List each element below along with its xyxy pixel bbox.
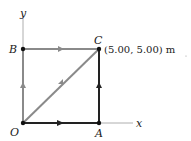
point-o xyxy=(21,121,25,125)
label-c: C xyxy=(94,35,102,46)
x-axis-label: x xyxy=(136,118,142,129)
label-a: A xyxy=(95,128,103,139)
arrow-o-c-icon xyxy=(58,79,63,84)
point-a xyxy=(97,121,101,125)
path-diagram xyxy=(0,0,191,141)
arrow-b-c-icon xyxy=(58,46,64,52)
arrow-o-a-icon xyxy=(57,120,64,126)
arrow-o-b-icon xyxy=(20,82,26,88)
path-o-c xyxy=(23,49,99,123)
label-b: B xyxy=(9,44,17,55)
arrow-a-c-icon xyxy=(96,82,102,88)
label-o: O xyxy=(10,127,19,138)
point-b xyxy=(21,47,25,51)
stray-dot xyxy=(185,55,186,56)
point-c xyxy=(97,47,101,51)
point-c-coordinate: (5.00, 5.00) m xyxy=(104,45,175,55)
y-axis-label: y xyxy=(20,8,26,19)
